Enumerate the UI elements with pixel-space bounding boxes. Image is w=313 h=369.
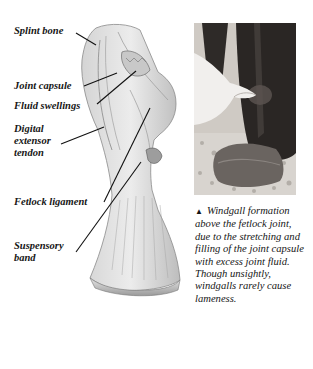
windgall-photo (194, 23, 296, 195)
label-digital-extensor-tendon: Digital extensor tendon (14, 123, 51, 159)
label-splint-bone: Splint bone (14, 25, 63, 37)
triangle-marker-icon: ▲ (195, 207, 203, 216)
label-fetlock-ligament: Fetlock ligament (14, 196, 87, 208)
label-fluid-swellings: Fluid swellings (14, 100, 80, 112)
label-suspensory-band: Suspensory band (14, 240, 64, 264)
photo-caption: ▲Windgall formation above the fetlock jo… (195, 205, 307, 305)
label-joint-capsule: Joint capsule (14, 80, 71, 92)
horse-leg-photo-icon (194, 23, 296, 195)
fetlock-anatomy-illustration (0, 0, 200, 369)
caption-text: Windgall formation above the fetlock joi… (195, 205, 304, 304)
